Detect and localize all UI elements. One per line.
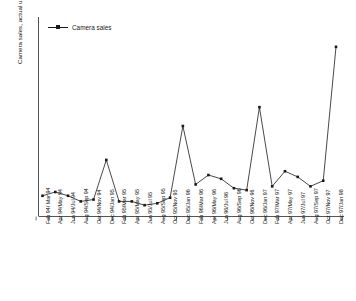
data-point-marker: Feb 94/ Mar 94: 11 [41,194,44,197]
data-point-marker: Oct 96/Nov 96: 14 [245,189,248,192]
data-point-marker: Dec 94/Jan 95: 30 [105,159,108,162]
axis-lines [39,17,345,217]
data-point-marker: Aug 95/Sep 95: 7 [156,202,159,205]
data-point-marker: Aug 94/Sep 94: 8 [79,200,82,203]
data-point-marker: Feb 95/Mar 95: 8 [118,200,121,203]
data-point-marker: Apr 95/May 95: 8 [131,200,134,203]
data-point-marker: Dec 97/Jan 98: 90 [335,46,338,49]
data-point-marker: Feb 96/Mar 96: 17 [194,183,197,186]
data-point-marker: Oct 95/Nov 95: 10 [169,196,172,199]
data-point-marker: Aug 96/Sep 96: 15 [233,187,236,190]
data-point-marker: Oct 94/Nov 94: 9 [92,198,95,201]
series-markers-camera-sales: Feb 94/ Mar 94: 11Apr 94/May 94: 13Jun 9… [41,46,337,207]
data-point-marker: Feb 97/Mar 97: 16 [271,185,274,188]
x-axis-ticks [36,217,342,221]
data-point-marker: Dec 95/Jan 96: 48 [182,125,185,128]
data-point-marker: Jun 96/Jul 96: 20 [220,178,223,181]
data-point-marker: Oct 97/Nov 97: 19 [322,179,325,182]
data-point-marker: Jun 97/Jul 97: 21 [296,176,299,179]
series-line-camera-sales [43,47,337,205]
data-point-marker: Jun 95/Jul 95: 6 [143,204,146,207]
data-point-marker: Aug 97/Sep 97: 16 [309,185,312,188]
data-point-marker: Dec 96/Jan 97: 58 [258,106,261,109]
plot-area: Feb 94/ Mar 94: 11Apr 94/May 94: 13Jun 9… [0,0,356,301]
data-point-marker: Apr 97/May 97: 24 [284,170,287,173]
data-point-marker: Jun 94/Jul 94: 11 [67,194,70,197]
data-point-marker: Apr 96/May 96: 22 [207,174,210,177]
data-point-marker: Apr 94/May 94: 13 [54,191,57,194]
camera-sales-line-chart: Camera sales, actual units confidential … [0,0,356,301]
